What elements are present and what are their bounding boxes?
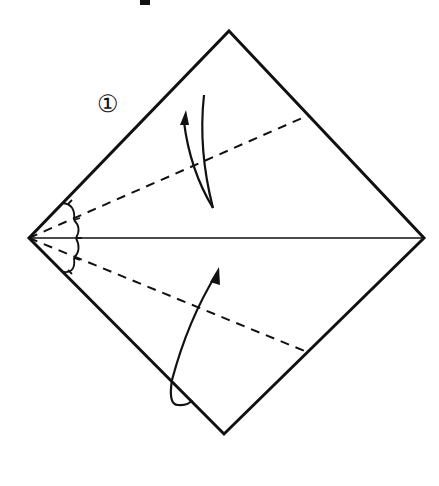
- fold-arrow-upper-icon: [184, 95, 213, 208]
- origami-diagram: [0, 0, 439, 486]
- upper-valley-fold-line: [29, 115, 309, 238]
- equal-angle-marks: [62, 200, 82, 274]
- lower-valley-fold-line: [29, 238, 307, 352]
- paper-square-outline: [29, 31, 424, 434]
- fold-arrow-lower-icon: [171, 273, 217, 405]
- step-number-label: ①: [94, 90, 122, 118]
- arrowhead-lower-icon: [210, 267, 220, 285]
- arrowhead-upper-icon: [180, 110, 189, 125]
